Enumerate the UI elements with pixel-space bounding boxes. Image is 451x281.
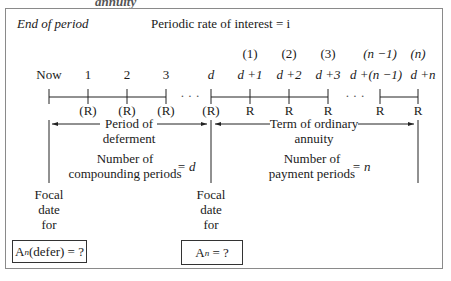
- payment-dn-1: R: [376, 104, 385, 118]
- tick-label-3: 3: [163, 68, 170, 82]
- payment-dn: R: [414, 104, 423, 118]
- tick-label-now: Now: [36, 68, 61, 82]
- payment-d1: R: [246, 104, 255, 118]
- tick-label-d2: d +2: [276, 68, 301, 82]
- focal-right-box-main: A: [195, 245, 204, 261]
- annuity-index-1: (1): [242, 47, 257, 61]
- focal-right-line3: for: [203, 218, 218, 232]
- tick-label-2: 2: [124, 68, 131, 82]
- payment-d: (R): [202, 104, 219, 118]
- annuity-index-3: (3): [320, 47, 335, 61]
- tick-label-1: 1: [85, 68, 92, 82]
- focal-left-box-main: A: [15, 244, 24, 260]
- annuity-count-2: payment periods: [269, 167, 355, 181]
- tick-label-dn-1: d +(n −1): [350, 68, 402, 82]
- rate-label: Periodic rate of interest = i: [151, 17, 290, 31]
- focal-right-line1: Focal: [197, 188, 226, 202]
- tick-label-d: d: [208, 68, 215, 82]
- payment-3: (R): [157, 104, 174, 118]
- deferment-count-2: compounding periods: [68, 167, 181, 181]
- tick-label-dn: d +n: [410, 68, 435, 82]
- payment-1: (R): [79, 104, 96, 118]
- focal-right-box-rest: = ?: [209, 245, 229, 261]
- annuity-equals: = n: [352, 160, 371, 174]
- deferment-equals: = d: [177, 160, 196, 174]
- focal-left-line3: for: [41, 218, 56, 232]
- deferment-label-1: Period of: [105, 117, 153, 131]
- annuity-index-n: (n): [410, 47, 425, 61]
- focal-left-box-rest: (defer) = ?: [29, 244, 84, 260]
- annuity-label-2: annuity: [295, 132, 334, 146]
- focal-right-box: An = ?: [181, 240, 243, 265]
- tick-label-d3: d +3: [315, 68, 340, 82]
- annuity-index-n-1: (n −1): [363, 47, 397, 61]
- focal-right-line2: date: [200, 203, 222, 217]
- focal-left-line1: Focal: [35, 188, 64, 202]
- annuity-count-1: Number of: [284, 152, 341, 166]
- focal-left-box: An(defer) = ?: [12, 240, 87, 263]
- deferment-count-1: Number of: [97, 152, 154, 166]
- ellipsis-deferment: · · ·: [180, 89, 200, 103]
- tick-label-d1: d +1: [237, 68, 262, 82]
- end-of-period-label: End of period: [17, 17, 89, 31]
- ellipsis-annuity: · · ·: [345, 89, 365, 103]
- annuity-label-1: Term of ordinary: [270, 117, 359, 131]
- timeline-graphics: [0, 0, 451, 281]
- deferment-label-2: deferment: [103, 132, 156, 146]
- focal-left-line2: date: [38, 203, 60, 217]
- annuity-index-2: (2): [281, 47, 296, 61]
